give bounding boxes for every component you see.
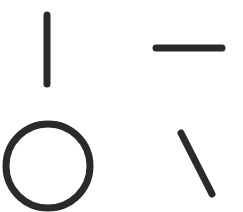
circle-shape — [6, 124, 90, 208]
shapes-canvas — [0, 0, 243, 212]
diagonal-line-shape — [181, 133, 212, 194]
